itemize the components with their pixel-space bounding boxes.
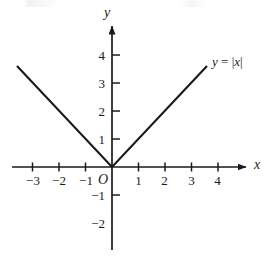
y-tick-label-4: 4 [92, 49, 105, 62]
x-tick-label-1: 1 [132, 174, 145, 187]
x-tick-label-neg1: −1 [77, 174, 95, 187]
y-axis-ticks [112, 55, 120, 195]
y-tick-label-2: 2 [92, 105, 105, 118]
x-tick-label-neg2: −2 [50, 174, 68, 187]
curve-label-bar-close: | [240, 54, 243, 69]
x-tick-label-2: 2 [158, 174, 171, 187]
absolute-value-graph-figure: y x O −3 −2 −1 1 2 3 4 1 2 3 4 −1 −2 y =… [0, 0, 273, 257]
x-tick-label-4: 4 [211, 174, 224, 187]
y-tick-label-1: 1 [92, 133, 105, 146]
plot-canvas [0, 0, 273, 257]
y-label-neg2: −2 [86, 217, 105, 230]
origin-label: O [98, 173, 108, 187]
curve-equation-label: y = |x| [212, 55, 243, 68]
x-tick-label-neg3: −3 [24, 174, 42, 187]
curve-label-equals: = [218, 54, 232, 69]
y-axis-label: y [104, 6, 110, 20]
y-tick-label-3: 3 [92, 77, 105, 90]
y-tick-label-neg1: −1 [86, 189, 105, 202]
x-axis-label: x [254, 158, 260, 172]
x-tick-label-3: 3 [185, 174, 198, 187]
